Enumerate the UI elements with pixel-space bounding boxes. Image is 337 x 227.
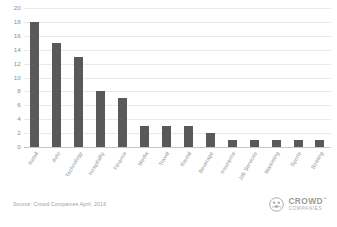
y-axis-tick-label: 10 — [14, 74, 21, 80]
crowd-companies-logo-icon — [269, 197, 284, 212]
bar[interactable] — [118, 98, 127, 147]
bar-slot — [265, 8, 287, 147]
x-axis-tick-label: Finance — [113, 151, 128, 171]
brand-name-text: CROWD — [288, 196, 323, 206]
x-axis-tick-label: Rental — [180, 151, 193, 168]
x-label-slot: Sports — [287, 149, 309, 195]
axis-baseline — [24, 147, 331, 148]
bar-slot — [287, 8, 309, 147]
y-axis-tick-label: 0 — [17, 144, 21, 150]
y-axis-tick-label: 18 — [14, 19, 21, 25]
x-label-slot: Rental — [177, 149, 199, 195]
brand-subtitle: COMPANIES — [288, 207, 327, 212]
y-axis-tick-label: 16 — [14, 33, 21, 39]
brand-lockup: CROWD™ COMPANIES — [269, 197, 327, 212]
bar-slot — [90, 8, 112, 147]
bar-slot — [221, 8, 243, 147]
bar[interactable] — [96, 91, 105, 147]
x-axis-tick-label: Marketing — [264, 151, 281, 175]
brand-text: CROWD™ COMPANIES — [288, 197, 327, 211]
x-label-slot: Media — [134, 149, 156, 195]
bar[interactable] — [52, 43, 61, 147]
bar[interactable] — [30, 22, 39, 147]
bar[interactable] — [315, 140, 324, 147]
x-label-slot: Retail — [24, 149, 46, 195]
y-axis: 02468101214161820 — [0, 8, 24, 147]
bar-slot — [177, 8, 199, 147]
y-axis-tick-label: 4 — [17, 116, 21, 122]
bar-slot — [156, 8, 178, 147]
x-axis-tick-label: Travel — [159, 151, 171, 167]
x-axis-tick-label: Technology — [65, 151, 84, 178]
y-axis-tick-label: 8 — [17, 88, 21, 94]
x-axis-tick-label: Hospitality — [88, 151, 106, 176]
x-label-slot: Boating — [309, 149, 331, 195]
x-axis-tick-label: Retail — [28, 151, 40, 166]
bar[interactable] — [74, 57, 83, 147]
plot-area: 02468101214161820 — [0, 0, 337, 155]
chart-footer: Source: Crowd Companies April, 2016 CROW… — [0, 195, 337, 227]
x-axis-tick-label: Sports — [290, 151, 303, 168]
bar-slot — [243, 8, 265, 147]
y-axis-tick-label: 2 — [17, 130, 21, 136]
x-axis-tick-label: Insurance — [220, 151, 237, 175]
trademark-symbol: ™ — [323, 198, 327, 202]
x-label-slot: Hospitality — [90, 149, 112, 195]
y-axis-tick-label: 20 — [14, 5, 21, 11]
source-note: Source: Crowd Companies April, 2016 — [13, 201, 106, 207]
x-axis-labels: RetailAutoTechnologyHospitalityFinanceMe… — [24, 149, 331, 195]
bar-slot — [112, 8, 134, 147]
bar[interactable] — [228, 140, 237, 147]
x-axis-tick-label: Media — [137, 151, 149, 167]
x-label-slot: Marketing — [265, 149, 287, 195]
bar-series — [24, 8, 331, 147]
bar[interactable] — [272, 140, 281, 147]
bar-slot — [134, 8, 156, 147]
x-axis-tick-label: Auto — [51, 151, 61, 164]
y-axis-tick-label: 6 — [17, 102, 21, 108]
bar-slot — [46, 8, 68, 147]
bar-chart-figure: 02468101214161820 RetailAutoTechnologyHo… — [0, 0, 337, 227]
bar[interactable] — [250, 140, 259, 147]
bar[interactable] — [140, 126, 149, 147]
bar[interactable] — [162, 126, 171, 147]
x-label-slot: Finance — [112, 149, 134, 195]
x-axis-tick-label: Beverage — [198, 151, 215, 174]
bar-slot — [309, 8, 331, 147]
x-label-slot: Job Services — [243, 149, 265, 195]
y-axis-tick-label: 14 — [14, 47, 21, 53]
x-label-slot: Travel — [156, 149, 178, 195]
brand-name: CROWD™ — [288, 197, 327, 205]
bar[interactable] — [294, 140, 303, 147]
x-axis-tick-label: Boating — [310, 151, 324, 170]
bar-slot — [68, 8, 90, 147]
x-label-slot: Beverage — [199, 149, 221, 195]
bar[interactable] — [184, 126, 193, 147]
bar-slot — [199, 8, 221, 147]
bar-slot — [24, 8, 46, 147]
y-axis-tick-label: 12 — [14, 60, 21, 66]
bar[interactable] — [206, 133, 215, 147]
